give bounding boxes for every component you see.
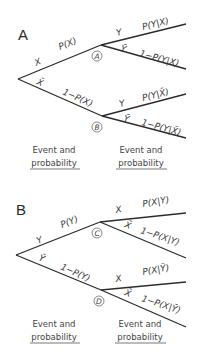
event-label: X	[114, 204, 124, 215]
probability-label: 1−P(X|Ȳ)	[140, 293, 182, 315]
event-label: X̄	[122, 219, 133, 232]
branch-y	[16, 222, 100, 255]
probability-label: P(X|Ȳ)	[142, 262, 170, 277]
node-label: A	[93, 52, 99, 61]
branch-c-x	[100, 213, 186, 222]
event-label: Y	[118, 98, 127, 109]
caption-line: Event and	[32, 145, 75, 155]
probability-label: 1−P(Y|X)	[138, 48, 180, 68]
probability-label: 1−P(Y|X̄)	[140, 117, 182, 138]
probability-tree-figure: A X P(X) X̄ 1−P(X) A B Y	[0, 0, 200, 356]
caption-line: probability	[117, 332, 162, 342]
probability-label: 1−P(Y)	[59, 262, 92, 284]
caption-line: Event and	[118, 319, 161, 329]
panel-b: B Y P(Y) Ȳ 1−P(Y) C D X	[16, 194, 186, 343]
panel-letter-a: A	[18, 26, 28, 43]
branch-d-x	[101, 282, 186, 290]
event-label: X	[32, 56, 43, 68]
caption-line: Event and	[32, 319, 75, 329]
caption-line: probability	[31, 332, 76, 342]
event-label: Y	[115, 27, 124, 38]
caption-line: probability	[118, 158, 163, 168]
probability-label: P(Y)	[59, 214, 79, 230]
node-label: C	[94, 229, 100, 238]
node-label: D	[96, 297, 102, 306]
caption-line: Event and	[119, 145, 162, 155]
panel-a: A X P(X) X̄ 1−P(X) A B Y	[18, 16, 186, 169]
event-label: X	[114, 273, 124, 284]
node-label: B	[94, 123, 99, 132]
probability-label: 1−P(X|Y)	[139, 225, 181, 247]
caption-line: probability	[31, 158, 76, 168]
probability-label: P(X|Y)	[142, 194, 170, 209]
probability-label: P(Y|X̄)	[141, 86, 170, 103]
panel-letter-b: B	[16, 201, 26, 218]
probability-label: P(X)	[57, 36, 78, 52]
event-label: Ȳ	[37, 253, 47, 265]
